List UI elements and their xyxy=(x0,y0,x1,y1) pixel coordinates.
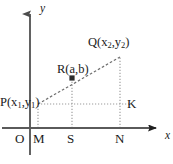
foot-label-S: S xyxy=(67,132,74,145)
x-axis-label: x xyxy=(165,130,170,142)
foot-label-M: M xyxy=(33,132,45,145)
geometry-figure: P(x1,y1) Q(x2,y2) R(a,b) K O M S N y x xyxy=(0,0,173,164)
point-label-Q-mid: ,y xyxy=(112,35,121,49)
point-label-Q: Q(x2,y2) xyxy=(88,36,130,50)
point-label-P: P(x1,y1) xyxy=(0,96,39,110)
foot-label-N: N xyxy=(115,132,124,145)
figure-canvas xyxy=(0,0,173,164)
point-label-P-mid: ,y xyxy=(22,95,31,109)
point-marker-R xyxy=(69,75,74,80)
axes xyxy=(2,14,156,155)
point-label-R: R(a,b) xyxy=(57,63,89,76)
origin-label: O xyxy=(15,132,24,145)
point-markers xyxy=(69,75,74,80)
point-label-Q-tail: ) xyxy=(125,35,129,49)
point-label-P-tail: ) xyxy=(35,95,39,109)
point-label-P-head: P(x xyxy=(0,95,17,109)
point-label-Q-head: Q(x xyxy=(88,35,107,49)
point-label-K: K xyxy=(127,97,136,110)
y-axis-label: y xyxy=(40,3,45,15)
